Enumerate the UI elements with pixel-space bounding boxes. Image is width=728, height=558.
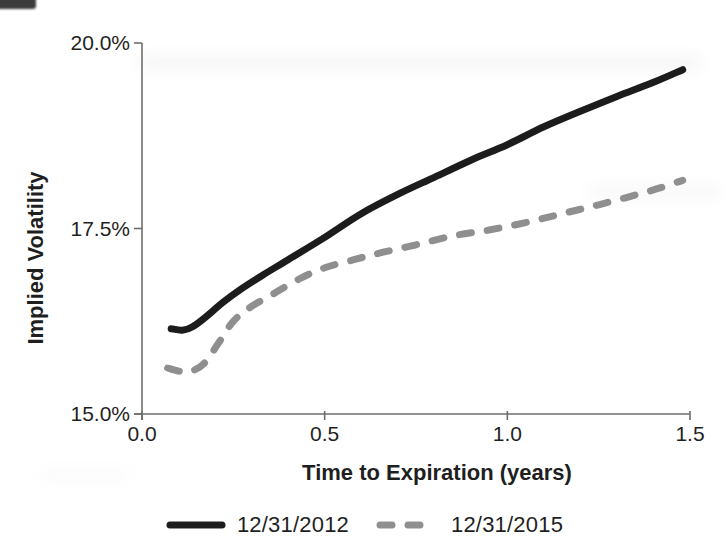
x-axis-title: Time to Expiration (years) (302, 460, 572, 486)
y-tick-label: 20.0% (70, 31, 130, 54)
legend-label-2015: 12/31/2015 (451, 512, 563, 538)
chart-legend: 12/31/2012 12/31/2015 (0, 512, 728, 538)
implied-volatility-chart: 0.00.51.01.515.0%17.5%20.0% Implied Vola… (0, 0, 728, 558)
y-tick-label: 17.5% (70, 217, 130, 240)
y-axis-title: Implied Volatility (23, 171, 49, 344)
x-tick-label: 1.0 (493, 422, 522, 445)
legend-item-2012: 12/31/2012 (165, 512, 349, 538)
dashed-line-swatch-icon (375, 519, 441, 531)
solid-line-swatch-icon (165, 519, 227, 531)
series-line-1 (168, 180, 683, 372)
x-tick-label: 1.5 (675, 422, 704, 445)
x-tick-label: 0.5 (310, 422, 339, 445)
legend-item-2015: 12/31/2015 (375, 512, 563, 538)
y-tick-label: 15.0% (70, 402, 130, 425)
legend-label-2012: 12/31/2012 (237, 512, 349, 538)
x-tick-label: 0.0 (127, 422, 156, 445)
